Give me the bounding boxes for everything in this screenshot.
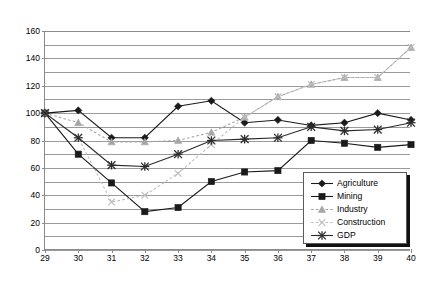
marker-asterisk xyxy=(373,125,382,134)
legend-label: Mining xyxy=(335,192,362,201)
x-axis-tick-label: 31 xyxy=(107,254,116,263)
legend-item-industry: Industry xyxy=(304,203,406,216)
x-axis-tick-label: 36 xyxy=(273,254,282,263)
marker-asterisk xyxy=(407,118,416,127)
legend-item-agriculture: Agriculture xyxy=(304,177,406,190)
marker-square xyxy=(341,140,347,146)
x-axis-tick-label: 33 xyxy=(173,254,182,263)
legend-label: Agriculture xyxy=(335,179,378,188)
marker-cross xyxy=(319,219,326,226)
marker-square xyxy=(308,137,314,143)
marker-asterisk xyxy=(74,133,83,142)
y-axis-tick-label: 160 xyxy=(26,27,40,36)
x-axis-tick-label: 29 xyxy=(40,254,49,263)
marker-asterisk xyxy=(107,161,116,170)
marker-triangle xyxy=(75,119,82,126)
x-axis-tick-label: 32 xyxy=(140,254,149,263)
legend-symbol-cross-icon xyxy=(309,216,335,229)
marker-asterisk xyxy=(273,133,282,142)
y-axis-tick-label: 120 xyxy=(26,82,40,91)
marker-asterisk xyxy=(318,231,327,240)
marker-asterisk xyxy=(140,162,149,171)
marker-square xyxy=(208,178,214,184)
legend-label: Industry xyxy=(335,205,368,214)
marker-asterisk xyxy=(307,123,316,132)
marker-asterisk xyxy=(41,109,50,118)
marker-square xyxy=(175,204,181,210)
x-axis-tick-label: 35 xyxy=(240,254,249,263)
y-axis-tick-label: 80 xyxy=(31,136,40,145)
legend-symbol-square-icon xyxy=(309,190,335,203)
marker-asterisk xyxy=(207,136,216,145)
chart-legend: AgricultureMiningIndustryConstructionGDP xyxy=(303,172,407,244)
gridline xyxy=(45,250,410,251)
series-line xyxy=(45,101,411,138)
legend-item-gdp: GDP xyxy=(304,229,406,242)
y-axis-tick-label: 40 xyxy=(31,191,40,200)
marker-square xyxy=(75,151,81,157)
marker-square xyxy=(108,180,114,186)
legend-item-mining: Mining xyxy=(304,190,406,203)
y-axis-tick-label: 60 xyxy=(31,164,40,173)
series-line xyxy=(45,113,411,166)
legend-symbol-diamond-icon xyxy=(309,177,335,190)
marker-diamond xyxy=(208,97,215,104)
series-agriculture xyxy=(41,97,414,141)
series-industry xyxy=(41,44,414,145)
y-axis-tick-label: 20 xyxy=(31,218,40,227)
marker-diamond xyxy=(374,110,381,117)
legend-item-construction: Construction xyxy=(304,216,406,229)
marker-asterisk xyxy=(240,135,249,144)
marker-square xyxy=(319,193,325,199)
marker-diamond xyxy=(341,119,348,126)
legend-label: Construction xyxy=(335,218,385,227)
marker-asterisk xyxy=(174,150,183,159)
legend-label: GDP xyxy=(335,231,356,240)
marker-triangle xyxy=(208,129,215,136)
x-axis-tick-label: 34 xyxy=(207,254,216,263)
chart-screenshot: 020406080100120140160 293031323334353637… xyxy=(0,0,425,284)
marker-square xyxy=(275,168,281,174)
y-axis-tick-label: 140 xyxy=(26,54,40,63)
legend-symbol-triangle-icon xyxy=(309,203,335,216)
marker-square xyxy=(375,144,381,150)
x-axis-tick-label: 37 xyxy=(306,254,315,263)
marker-diamond xyxy=(318,180,325,187)
x-axis-tick-label: 39 xyxy=(373,254,382,263)
marker-triangle xyxy=(318,206,325,213)
x-axis-tick-label: 40 xyxy=(406,254,415,263)
y-axis-tick-label: 100 xyxy=(26,109,40,118)
x-axis-tick-mark xyxy=(411,249,412,253)
marker-asterisk xyxy=(340,127,349,136)
marker-square xyxy=(142,209,148,215)
marker-square xyxy=(408,142,414,148)
x-axis-tick-label: 38 xyxy=(340,254,349,263)
marker-cross xyxy=(175,170,182,177)
legend-symbol-asterisk-icon xyxy=(309,229,335,242)
marker-diamond xyxy=(274,116,281,123)
marker-square xyxy=(242,169,248,175)
x-axis-tick-label: 30 xyxy=(74,254,83,263)
marker-triangle xyxy=(174,137,181,144)
